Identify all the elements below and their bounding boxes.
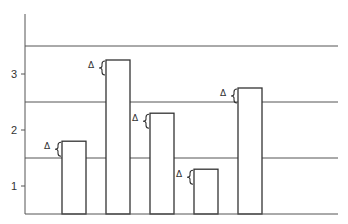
bar-2 bbox=[106, 60, 130, 214]
brace-icon bbox=[231, 89, 237, 103]
bar-4 bbox=[194, 169, 218, 214]
bar-chart: 123 ΔΔΔΔΔ bbox=[0, 0, 348, 224]
bars bbox=[62, 60, 262, 214]
delta-label: Δ bbox=[176, 169, 183, 179]
delta-label: Δ bbox=[220, 88, 227, 98]
y-tick-label: 1 bbox=[11, 180, 17, 192]
delta-label: Δ bbox=[44, 141, 51, 151]
delta-label: Δ bbox=[132, 113, 139, 123]
bar-3 bbox=[150, 113, 174, 214]
brace-icon bbox=[187, 170, 193, 184]
brace-icon bbox=[143, 114, 149, 128]
brace-icon bbox=[99, 61, 105, 75]
delta-label: Δ bbox=[88, 60, 95, 70]
y-tick-label: 2 bbox=[11, 124, 17, 136]
bar-5 bbox=[238, 88, 262, 214]
bar-1 bbox=[62, 141, 86, 214]
brace-icon bbox=[55, 142, 61, 156]
y-tick-label: 3 bbox=[11, 68, 17, 80]
